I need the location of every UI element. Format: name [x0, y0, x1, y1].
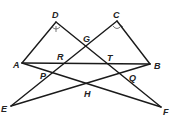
segment-AD: [22, 22, 56, 63]
label-A: A: [12, 60, 20, 70]
geometry-diagram: D C G A B R T P Q H E F: [0, 0, 172, 124]
label-F: F: [163, 107, 169, 117]
segment-CB: [117, 21, 150, 64]
label-H: H: [84, 89, 91, 99]
segment-EB: [11, 64, 150, 106]
segment-AF: [22, 63, 161, 107]
label-C: C: [113, 10, 120, 20]
label-R: R: [57, 52, 64, 62]
angle-mark-C: [113, 26, 121, 29]
label-G: G: [83, 34, 90, 44]
label-E: E: [1, 104, 8, 114]
label-T: T: [107, 53, 114, 63]
label-D: D: [52, 10, 59, 20]
label-B: B: [154, 61, 161, 71]
label-Q: Q: [129, 73, 136, 83]
segment-AB: [22, 63, 150, 64]
label-P: P: [40, 71, 47, 81]
